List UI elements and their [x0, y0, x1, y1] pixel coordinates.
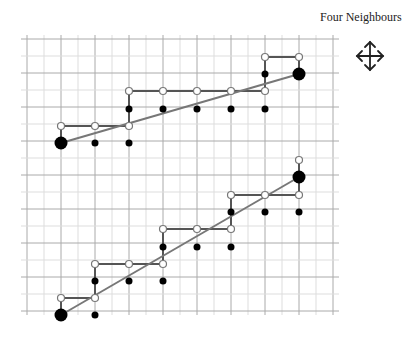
filled-dot — [126, 106, 133, 113]
open-dot — [262, 88, 269, 95]
filled-dot — [126, 278, 133, 285]
open-dot — [58, 123, 65, 130]
filled-dot — [92, 278, 99, 285]
open-dot — [262, 192, 269, 199]
open-dot — [126, 88, 133, 95]
open-dot — [92, 123, 99, 130]
open-dot — [126, 123, 133, 130]
filled-dot — [92, 140, 99, 147]
open-dot — [58, 295, 65, 302]
open-dot — [296, 54, 303, 61]
endpoint-dot — [55, 137, 68, 150]
filled-dot — [262, 106, 269, 113]
open-dot — [160, 226, 167, 233]
filled-dot — [228, 209, 235, 216]
filled-dot — [228, 106, 235, 113]
filled-dot — [126, 140, 133, 147]
open-dot — [228, 88, 235, 95]
grid-diagram — [0, 0, 410, 337]
filled-dot — [228, 244, 235, 251]
open-dot — [92, 261, 99, 268]
endpoint-dot — [55, 309, 68, 322]
filled-dot — [160, 278, 167, 285]
open-dot — [262, 54, 269, 61]
four-way-arrows-icon — [355, 39, 385, 73]
filled-dot — [194, 106, 201, 113]
open-dot — [194, 88, 201, 95]
filled-dot — [194, 244, 201, 251]
filled-dot — [160, 106, 167, 113]
endpoint-dot — [293, 171, 306, 184]
filled-dot — [262, 209, 269, 216]
open-dot — [92, 295, 99, 302]
open-dot — [296, 192, 303, 199]
open-dot — [126, 261, 133, 268]
open-dot — [160, 261, 167, 268]
filled-dot — [92, 312, 99, 319]
diagram-title: Four Neighbours — [320, 10, 402, 25]
open-dot — [228, 192, 235, 199]
filled-dot — [262, 71, 269, 78]
open-dot — [194, 226, 201, 233]
filled-dot — [160, 244, 167, 251]
open-dot — [160, 88, 167, 95]
open-dot — [228, 226, 235, 233]
open-dot — [296, 157, 303, 164]
filled-dot — [296, 209, 303, 216]
endpoint-dot — [293, 68, 306, 81]
